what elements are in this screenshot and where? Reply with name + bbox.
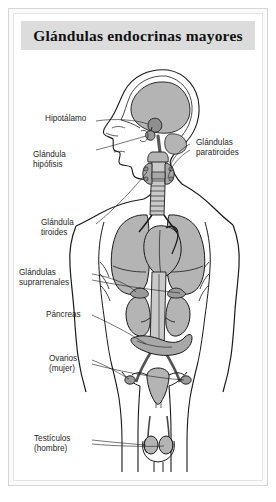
kidney-left-organ bbox=[166, 296, 190, 336]
kidney-right-organ bbox=[126, 296, 150, 336]
leader-ovarios-1 bbox=[92, 360, 129, 379]
label-paratiroides-line2: paratiroides bbox=[196, 148, 239, 158]
body-side-right bbox=[223, 225, 239, 392]
anatomy-illustration bbox=[0, 0, 276, 502]
thyroid-gland-organ bbox=[143, 163, 152, 184]
label-tiroides-line1: Glándula bbox=[41, 218, 74, 228]
label-paratiroides-line1: Glándulas bbox=[196, 138, 239, 148]
label-glandulas-paratiroides: Glándulas paratiroides bbox=[196, 138, 239, 158]
nose-line bbox=[106, 133, 118, 136]
pelvis-male-group bbox=[143, 416, 175, 472]
label-hipofisis-line1: Glándula bbox=[33, 150, 66, 160]
label-ovarios-line2: (mujer) bbox=[49, 364, 77, 374]
label-glandulas-suprarrenales: Glándulas suprarrenales bbox=[19, 268, 69, 288]
label-ovarios-line1: Ovarios bbox=[49, 354, 77, 364]
endocrine-glands-figure: Glándulas endocrinas mayores bbox=[0, 0, 276, 502]
spermatic-cord-left bbox=[167, 416, 169, 438]
label-suprarrenales-line1: Glándulas bbox=[19, 268, 69, 278]
label-testiculos-line2: (hombre) bbox=[34, 444, 70, 454]
label-ovarios: Ovarios (mujer) bbox=[49, 354, 77, 374]
eye-line bbox=[112, 127, 125, 129]
label-hipotalamo-line1: Hipotálamo bbox=[45, 114, 86, 124]
label-pancreas-line1: Páncreas bbox=[46, 310, 81, 320]
parathyroid-gland-organ bbox=[144, 167, 148, 171]
hip-left bbox=[111, 362, 122, 472]
spermatic-cord-right bbox=[148, 416, 150, 438]
label-hipotalamo: Hipotálamo bbox=[45, 114, 86, 124]
parathyroid-gland-organ bbox=[144, 177, 148, 181]
trunk-contour-left bbox=[99, 222, 111, 362]
thyroid-cartilage bbox=[148, 152, 169, 162]
inner-leg-right bbox=[169, 386, 171, 472]
leader-hipofisis bbox=[96, 136, 146, 150]
ovary-right-organ bbox=[125, 376, 135, 384]
label-hipofisis-line2: hipófisis bbox=[33, 160, 66, 170]
inner-leg-left bbox=[138, 386, 140, 472]
label-testiculos: Testículos (hombre) bbox=[34, 434, 70, 454]
label-tiroides-line2: tiroides bbox=[41, 228, 74, 238]
label-glandula-hipofisis: Glándula hipófisis bbox=[33, 150, 66, 170]
label-suprarrenales-line2: suprarrenales bbox=[19, 278, 69, 288]
hypothalamus-organ bbox=[148, 118, 162, 132]
pelvis-female-group bbox=[125, 368, 191, 408]
cerebellum bbox=[165, 134, 187, 154]
label-glandula-tiroides: Glándula tiroides bbox=[41, 218, 74, 238]
thyroid-isthmus bbox=[152, 172, 165, 179]
label-pancreas: Páncreas bbox=[46, 310, 81, 320]
parathyroid-gland-organ bbox=[169, 177, 173, 181]
penis-outline bbox=[154, 462, 163, 472]
label-testiculos-line1: Testículos bbox=[34, 434, 70, 444]
uterus-organ bbox=[147, 368, 169, 404]
shoulder-right bbox=[182, 184, 233, 225]
